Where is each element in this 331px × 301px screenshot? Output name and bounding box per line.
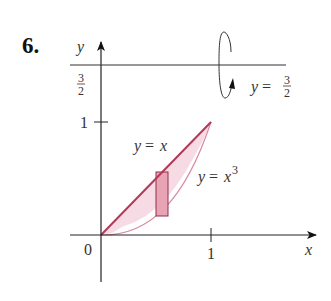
svg-text:=: = bbox=[145, 137, 154, 154]
origin-label: 0 bbox=[84, 241, 92, 258]
y-tick-three-halves: 3 2 bbox=[77, 71, 85, 98]
y-axis-label: y bbox=[75, 38, 85, 56]
svg-text:3: 3 bbox=[78, 71, 84, 85]
svg-text:x: x bbox=[159, 137, 167, 154]
svg-text:y: y bbox=[196, 168, 206, 186]
svg-text:2: 2 bbox=[78, 84, 84, 98]
label-y-equals-x-cubed: y = x 3 bbox=[196, 163, 238, 186]
diagram-canvas: 6. y x 0 1 1 3 2 y = x y = x 3 y = 3 2 bbox=[0, 0, 331, 301]
x-tick-label: 1 bbox=[207, 245, 215, 262]
label-axis-of-rotation: y = 3 2 bbox=[249, 73, 291, 100]
curve-y-equals-x bbox=[101, 122, 211, 235]
y-tick-label: 1 bbox=[80, 114, 88, 131]
svg-text:3: 3 bbox=[232, 163, 238, 177]
label-y-equals-x: y = x bbox=[132, 137, 167, 155]
svg-text:2: 2 bbox=[284, 86, 290, 100]
svg-text:x: x bbox=[223, 168, 231, 185]
svg-text:y: y bbox=[249, 78, 259, 96]
svg-text:=: = bbox=[209, 168, 218, 185]
svg-text:y: y bbox=[132, 137, 142, 155]
problem-number: 6. bbox=[22, 33, 39, 58]
approximating-strip bbox=[156, 172, 168, 216]
rotation-arrowhead-icon bbox=[229, 78, 235, 89]
x-axis-label: x bbox=[304, 241, 312, 258]
svg-text:3: 3 bbox=[284, 73, 290, 87]
svg-text:=: = bbox=[262, 78, 271, 95]
